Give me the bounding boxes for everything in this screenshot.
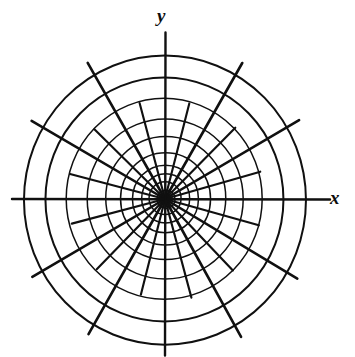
grid-spoke-short [141, 199, 165, 295]
x-axis-line [12, 199, 330, 200]
polar-grid-canvas [0, 0, 355, 357]
polar-grid-figure: y x [0, 0, 355, 357]
y-axis-label: y [157, 6, 165, 25]
y-axis-line [165, 32, 166, 355]
grid-spoke-short [140, 103, 165, 199]
grid-spoke-short [165, 199, 259, 225]
grid-spoke-short [70, 174, 165, 199]
grid-spoke-short [72, 199, 165, 224]
x-axis-label: x [330, 188, 340, 207]
